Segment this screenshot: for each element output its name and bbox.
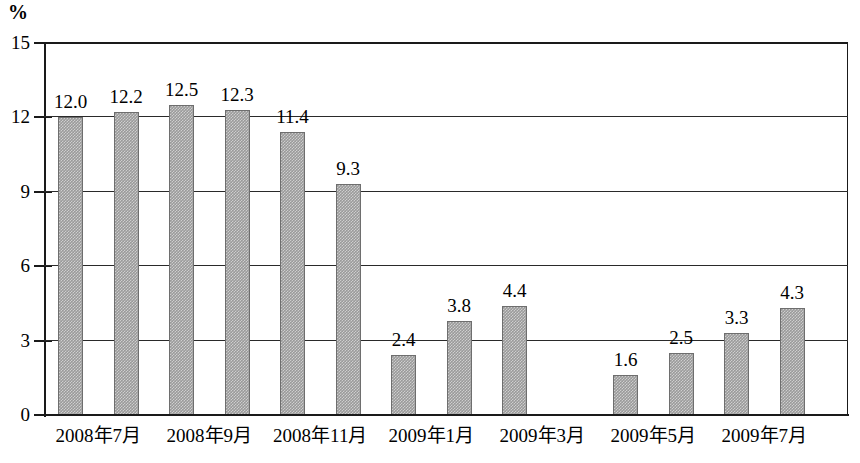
bar	[447, 321, 472, 415]
y-tick-label-9: 9	[2, 182, 30, 201]
bar-value-label: 11.4	[263, 107, 323, 126]
y-tick-label-3: 3	[2, 331, 30, 350]
bar-value-label: 12.0	[41, 92, 101, 111]
plot-area: 12.012.212.512.311.49.32.43.84.41.62.53.…	[44, 43, 848, 415]
bar-value-label: 3.3	[707, 308, 767, 327]
bar-chart: % 03691215 12.012.212.512.311.49.32.43.8…	[0, 0, 860, 463]
bar	[613, 375, 638, 415]
bar	[169, 105, 194, 415]
bar-value-label: 9.3	[318, 159, 378, 178]
bar	[114, 112, 139, 415]
bar-value-label: 4.4	[485, 281, 545, 300]
bar-value-label: 12.5	[152, 80, 212, 99]
bar	[225, 110, 250, 415]
plot-right-border	[847, 43, 848, 415]
bar-value-label: 3.8	[429, 296, 489, 315]
bar	[669, 353, 694, 415]
gridline-12	[44, 116, 848, 117]
bar-value-label: 2.5	[651, 328, 711, 347]
gridline-9	[44, 191, 848, 192]
bar	[336, 184, 361, 415]
y-tick-label-12: 12	[2, 107, 30, 126]
bar	[391, 355, 416, 415]
bar-value-label: 1.6	[596, 350, 656, 369]
y-axis-unit-label: %	[8, 2, 28, 22]
gridline-15	[44, 42, 848, 44]
y-tick-label-0: 0	[2, 405, 30, 424]
y-tick-label-15: 15	[2, 33, 30, 52]
bar-value-label: 12.2	[96, 87, 156, 106]
gridline-6	[44, 265, 848, 266]
x-tick-label: 2009年7月	[699, 426, 829, 447]
y-tick-label-6: 6	[2, 256, 30, 275]
bar	[724, 333, 749, 415]
bar-value-label: 12.3	[207, 85, 267, 104]
bar	[58, 117, 83, 415]
bar	[280, 132, 305, 415]
bar-value-label: 2.4	[374, 330, 434, 349]
bar	[502, 306, 527, 415]
bar-value-label: 4.3	[762, 283, 822, 302]
x-axis-line	[44, 414, 849, 416]
bar	[780, 308, 805, 415]
